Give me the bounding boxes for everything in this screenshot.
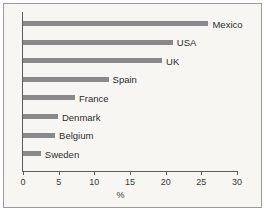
bar [23,77,109,82]
chart-frame: 051015202530 MexicoUSAUKSpainFranceDenma… [3,3,262,208]
x-tick-label: 15 [125,177,135,187]
bar-label: USA [173,37,197,48]
x-axis-title: % [4,190,237,200]
bar-row: Mexico [23,21,267,26]
x-tick [237,171,238,175]
bar-row: Belgium [23,133,267,138]
bar [23,21,208,26]
bar-label: Mexico [208,18,242,29]
bar [23,95,75,100]
bar-row: UK [23,58,267,63]
bar [23,58,162,63]
x-tick-label: 0 [20,177,25,187]
bar-chart-plot: 051015202530 MexicoUSAUKSpainFranceDenma… [4,4,261,207]
bar-row: France [23,95,267,100]
x-tick-label: 30 [232,177,242,187]
x-tick-label: 10 [89,177,99,187]
x-tick-label: 25 [196,177,206,187]
x-tick-label: 20 [161,177,171,187]
x-tick [94,171,95,175]
bar-row: Denmark [23,114,267,119]
y-axis-line [22,12,23,171]
bar [23,133,55,138]
bar-label: UK [162,55,179,66]
x-tick [201,171,202,175]
x-tick [130,171,131,175]
bar-label: Denmark [58,111,101,122]
bar [23,40,173,45]
bar [23,114,58,119]
bar-label: Spain [109,74,137,85]
bar-row: USA [23,40,267,45]
bar-label: France [75,92,109,103]
bar-row: Sweden [23,151,267,156]
bar [23,151,41,156]
x-tick-label: 5 [56,177,61,187]
bar-row: Spain [23,77,267,82]
x-tick [59,171,60,175]
x-tick [166,171,167,175]
bar-label: Belgium [55,130,93,141]
x-tick [23,171,24,175]
bar-label: Sweden [41,148,79,159]
